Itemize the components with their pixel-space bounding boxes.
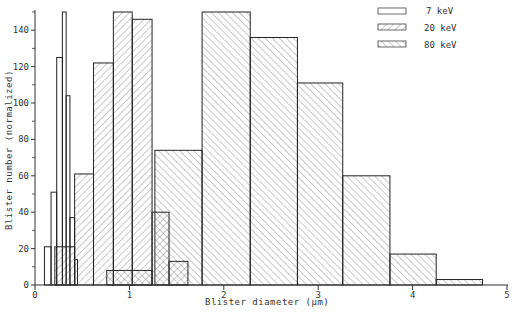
legend: 7 keV 20 keV 80 keV — [378, 6, 457, 50]
y-tick-label: 100 — [13, 98, 29, 108]
histogram-chart: 020406080100120140 012345 Blister diamet… — [0, 0, 516, 315]
y-axis: 020406080100120140 — [13, 10, 35, 290]
legend-swatch-open — [378, 8, 406, 14]
histogram-bar — [202, 12, 250, 285]
x-tick-label: 1 — [127, 290, 132, 300]
histogram-bar — [169, 261, 188, 285]
histogram-bar — [390, 254, 436, 285]
legend-item-80kev: 80 keV — [378, 40, 457, 50]
histogram-bar — [113, 12, 132, 285]
y-tick-label: 60 — [18, 171, 29, 181]
histogram-bar — [55, 247, 75, 285]
y-tick-label: 0 — [24, 280, 29, 290]
legend-item-20kev: 20 keV — [378, 23, 457, 33]
legend-label-20kev: 20 keV — [424, 23, 457, 33]
histogram-bar — [132, 19, 152, 285]
x-axis-title: Blister diameter (μm) — [205, 297, 329, 307]
y-tick-label: 40 — [18, 207, 29, 217]
legend-swatch-forward-hatch — [378, 24, 406, 30]
legend-item-7kev: 7 keV — [378, 6, 454, 16]
histogram-bar — [44, 247, 51, 285]
x-tick-label: 5 — [504, 290, 509, 300]
legend-label-80kev: 80 keV — [424, 40, 457, 50]
histogram-bar — [297, 83, 342, 285]
histogram-bar — [152, 212, 169, 285]
legend-label-7kev: 7 keV — [426, 6, 454, 16]
legend-swatch-back-hatch — [378, 41, 406, 47]
x-tick-label: 4 — [410, 290, 415, 300]
y-tick-label: 20 — [18, 244, 29, 254]
y-tick-label: 80 — [18, 134, 29, 144]
series-7kev-bars — [44, 12, 77, 285]
histogram-bar — [436, 280, 482, 285]
y-tick-label: 140 — [13, 25, 29, 35]
x-tick-label: 0 — [32, 290, 37, 300]
histogram-bar — [94, 63, 114, 285]
y-axis-title: Blister number (normalized) — [4, 70, 14, 230]
histogram-bar — [250, 37, 297, 285]
histogram-bar — [62, 12, 66, 285]
y-tick-label: 120 — [13, 62, 29, 72]
histogram-bar — [343, 176, 390, 285]
